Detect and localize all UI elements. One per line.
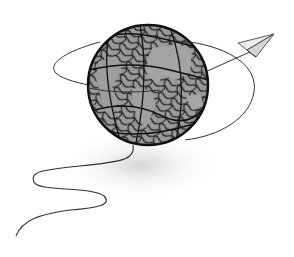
globe <box>85 22 215 152</box>
plane-trail <box>205 52 250 72</box>
illustration <box>0 0 294 257</box>
paper-plane <box>238 34 274 57</box>
